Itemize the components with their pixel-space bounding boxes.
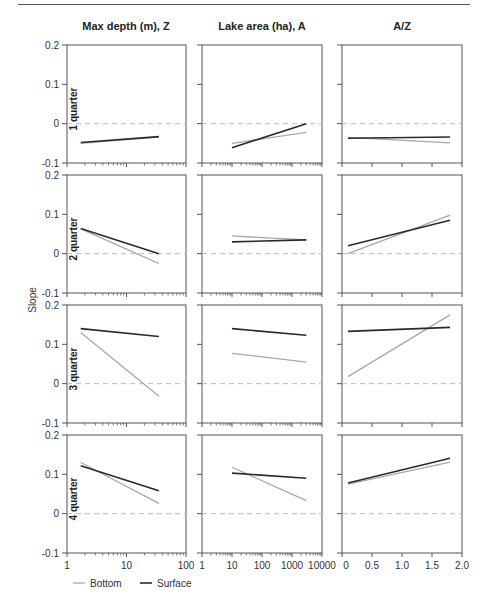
row-label: 4 quarter	[68, 477, 79, 520]
surface-series-line	[81, 228, 159, 253]
bottom-series-line	[232, 132, 306, 143]
x-tick-label: 100	[178, 560, 195, 571]
x-tick-label: 1	[199, 560, 205, 571]
bottom-series-line	[81, 333, 159, 397]
row-label: 2 quarter	[68, 217, 79, 260]
surface-series-line	[81, 466, 159, 491]
legend-bottom-label: Bottom	[90, 578, 122, 589]
x-tick-label: 1.0	[395, 560, 409, 571]
x-tick-label: 10000	[308, 560, 336, 571]
y-tick-label: 0.2	[45, 40, 59, 51]
y-tick-label: -0.1	[42, 288, 60, 299]
panel-frame	[202, 435, 322, 553]
panel-frame	[342, 175, 462, 293]
column-title: Max depth (m), Z	[82, 20, 170, 32]
bottom-series-line	[232, 467, 306, 500]
bottom-series-line	[348, 215, 450, 254]
x-tick-label: 0	[343, 560, 349, 571]
y-tick-label: 0.1	[45, 469, 59, 480]
x-tick-label: 1000	[281, 560, 304, 571]
surface-series-line	[232, 329, 306, 336]
surface-series-line	[81, 137, 159, 143]
y-tick-label: 0.1	[45, 79, 59, 90]
row-label: 1 quarter	[68, 87, 79, 130]
y-tick-label: 0	[53, 508, 59, 519]
legend-surface-label: Surface	[157, 578, 192, 589]
bottom-series-line	[348, 462, 450, 484]
y-tick-label: 0	[53, 378, 59, 389]
chart-figure: Max depth (m), ZLake area (ha), AA/ZSlop…	[0, 0, 489, 604]
x-tick-label: 1	[64, 560, 70, 571]
y-tick-label: -0.1	[42, 418, 60, 429]
y-tick-label: -0.1	[42, 548, 60, 559]
bottom-series-line	[232, 353, 306, 362]
column-title: A/Z	[393, 20, 411, 32]
bottom-series-line	[81, 229, 159, 264]
panel-frame	[67, 305, 186, 423]
panel-frame	[342, 435, 462, 553]
y-tick-label: 0	[53, 248, 59, 259]
surface-series-line	[348, 137, 450, 138]
surface-series-line	[232, 124, 306, 148]
surface-series-line	[348, 327, 450, 331]
panel-frame	[67, 175, 186, 293]
panel-frame	[202, 175, 322, 293]
y-tick-label: 0.1	[45, 209, 59, 220]
panel-frame	[202, 305, 322, 423]
x-tick-label: 10	[121, 560, 133, 571]
x-tick-label: 0.5	[365, 560, 379, 571]
panel-frame	[342, 305, 462, 423]
y-tick-label: -0.1	[42, 158, 60, 169]
y-axis-label: Slope	[27, 287, 38, 313]
surface-series-line	[81, 329, 159, 337]
column-title: Lake area (ha), A	[218, 20, 306, 32]
surface-series-line	[232, 240, 306, 242]
bottom-series-line	[348, 315, 450, 377]
surface-series-line	[232, 473, 306, 478]
panel-frame	[67, 435, 186, 553]
panel-frame	[342, 45, 462, 163]
surface-series-line	[348, 458, 450, 483]
x-tick-label: 10	[226, 560, 238, 571]
y-tick-label: 0.1	[45, 339, 59, 350]
y-tick-label: 0	[53, 118, 59, 129]
y-tick-label: 0.2	[45, 170, 59, 181]
y-tick-label: 0.2	[45, 300, 59, 311]
bottom-series-line	[232, 236, 306, 240]
panel-frame	[202, 45, 322, 163]
y-tick-label: 0.2	[45, 430, 59, 441]
panel-frame	[67, 45, 186, 163]
row-label: 3 quarter	[68, 347, 79, 390]
x-tick-label: 1.5	[425, 560, 439, 571]
x-tick-label: 100	[254, 560, 271, 571]
surface-series-line	[348, 220, 450, 246]
x-tick-label: 2.0	[455, 560, 469, 571]
